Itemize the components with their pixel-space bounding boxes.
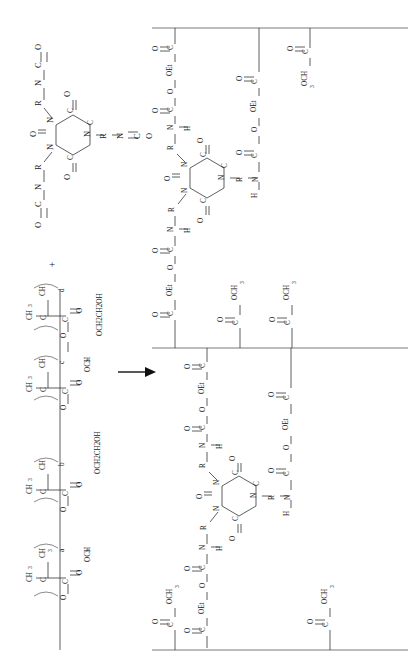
plus-sign: +	[49, 258, 55, 270]
unit-a-ch2-sub: 3	[47, 549, 53, 552]
top1-hydrogen: H	[184, 126, 192, 131]
reaction-scheme-figure: N N N C C C O O O R N C O	[0, 0, 411, 664]
unit-b-backbone-ch2: CH	[39, 460, 47, 470]
bot3-hydrogen: H	[283, 511, 291, 516]
mid-b-pendant-sub: 3	[291, 281, 297, 284]
unit-a-quaternary-carbon: C	[40, 577, 48, 582]
bot1-hydrogen: H	[216, 444, 224, 449]
botme2-pendant-sub: 3	[329, 585, 335, 588]
top2-urethane-oxygen: O	[152, 248, 160, 253]
mid-b-pendant-och3: OCH	[283, 285, 291, 300]
top3-urethane-oxygen: O	[236, 150, 244, 155]
unit-d-methyl: CH	[26, 310, 34, 320]
botme2-pendant-och3: OCH	[321, 589, 329, 604]
bot2-urethane-carbon: C	[199, 565, 207, 570]
botme2-carbonyl-oxygen: O	[307, 619, 315, 624]
top1-spacer-r: R	[167, 145, 175, 150]
topme-carbonyl-oxygen: O	[287, 46, 295, 51]
top-ring-c1: C	[200, 152, 208, 157]
top-ring-n3: N	[218, 174, 226, 180]
bot-ring-oxygen-1: O	[229, 456, 237, 461]
bot1-spacer-r: R	[199, 463, 207, 468]
arm1-spacer-r: R	[33, 100, 43, 106]
unit-a-pendant: OCH	[84, 547, 92, 562]
ring-atom-n3: N	[82, 131, 92, 137]
bot3-carbonyl-oxygen: O	[268, 392, 276, 397]
figure-background	[0, 0, 411, 664]
bot2-carbonyl-oxygen: O	[184, 628, 192, 633]
subscript-c: c	[58, 361, 66, 364]
top1-urethane-oxygen: O	[152, 108, 160, 113]
unit-d-backbone-ch2: CH	[39, 286, 47, 296]
top-ring-c3: C	[221, 163, 229, 168]
top2-oet-label: OEt	[166, 284, 174, 296]
top3-urethane-carbon: C	[251, 153, 259, 158]
top3-linking-oxygen: O	[251, 127, 259, 132]
unit-b-methyl-sub: 3	[27, 478, 33, 481]
arm3-spacer-r: R	[98, 133, 108, 139]
top-ring-n1: N	[181, 161, 189, 167]
top-ring-c2: C	[200, 198, 208, 203]
arm1-carbon: C	[33, 62, 43, 68]
top3-nitrogen: N	[252, 176, 260, 182]
mid-b-ester-carbon: C	[284, 320, 292, 325]
arm2-carbon: C	[33, 201, 43, 207]
bot-ring-c1: C	[232, 470, 240, 475]
topme-ester-carbon: C	[302, 49, 310, 54]
bot-ring-c3: C	[253, 481, 261, 486]
top1-ester-carbon: C	[167, 45, 175, 50]
bot3-nitrogen: N	[284, 494, 292, 500]
unit-b-ester-carbon: C	[62, 491, 70, 496]
bot1-linking-oxygen: O	[199, 407, 207, 412]
top1-urethane-carbon: C	[167, 107, 175, 112]
bot-ring-n1: N	[213, 479, 221, 485]
mid-a-pendant-sub: 3	[239, 281, 245, 284]
unit-b-carbonyl-oxygen: O	[76, 482, 84, 487]
arm2-nitrogen: N	[33, 184, 43, 190]
arm2-oxygen: O	[33, 222, 43, 228]
top-ring-oxygen-1: O	[197, 138, 205, 143]
unit-c-quaternary-carbon: C	[40, 387, 48, 392]
unit-c-methyl: CH	[26, 382, 34, 392]
ring-atom-c3: C	[87, 120, 95, 125]
bot2-spacer-r: R	[200, 525, 208, 530]
bot-ring-n2: N	[213, 505, 221, 511]
top2-linking-oxygen: O	[167, 265, 175, 270]
top2-ester-carbon: C	[167, 311, 175, 316]
ring-atom-c2: C	[67, 155, 75, 160]
bot1-ester-carbon: C	[199, 363, 207, 368]
arm3-oxygen: O	[144, 133, 154, 139]
bot1-nitrogen: N	[199, 442, 207, 448]
mid-b-carbonyl-oxygen: O	[269, 317, 277, 322]
unit-d-ester-carbon: C	[62, 317, 70, 322]
arm2-spacer-r: R	[33, 164, 43, 170]
unit-d-ester-oxygen: O	[60, 333, 68, 338]
top2-urethane-carbon: C	[167, 247, 175, 252]
arm1-oxygen: O	[33, 44, 43, 50]
unit-b-pendant: OCH2CH2OH	[94, 431, 102, 474]
ring-oxygen-3: O	[28, 131, 38, 137]
top1-oet-label: OEt	[166, 64, 174, 76]
mid-a-pendant-och3: OCH	[231, 285, 239, 300]
unit-b-quaternary-carbon: C	[40, 489, 48, 494]
mid-a-carbonyl-oxygen: O	[217, 317, 225, 322]
unit-a-pendant-sub: 3	[85, 549, 91, 552]
bot1-urethane-carbon: C	[199, 425, 207, 430]
top1-carbonyl-oxygen: O	[152, 46, 160, 51]
top3-hydrogen: H	[251, 193, 259, 198]
unit-c-pendant: OCH	[84, 357, 92, 372]
unit-c-ester-oxygen: O	[60, 405, 68, 410]
bot-ring-n3: N	[250, 492, 258, 498]
unit-a-ester-carbon: C	[62, 579, 70, 584]
botme1-carbonyl-oxygen: O	[152, 619, 160, 624]
unit-d-pendant: OCH2CH2OH	[96, 293, 104, 336]
top-ring-n2: N	[181, 187, 189, 193]
bot1-carbonyl-oxygen: O	[184, 364, 192, 369]
botme2-ester-carbon: C	[322, 622, 330, 627]
unit-b-methyl: CH	[26, 484, 34, 494]
bot3-linking-oxygen: O	[283, 445, 291, 450]
arm3-nitrogen: N	[115, 133, 125, 139]
ring-oxygen-2: O	[62, 174, 72, 180]
bot1-oet-label: OEt	[198, 382, 206, 394]
topme-pendant-sub: 3	[309, 85, 315, 88]
